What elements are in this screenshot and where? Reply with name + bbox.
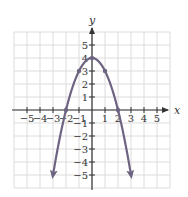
y-tick-label: −4 [73, 157, 88, 168]
axes [12, 28, 168, 190]
data-point [64, 108, 68, 112]
data-point [90, 56, 94, 60]
x-tick-label: 4 [141, 113, 147, 124]
x-tick-label: 3 [128, 113, 134, 124]
y-tick-label: 5 [82, 40, 88, 51]
y-tick-label: 2 [82, 79, 88, 90]
y-axis-label: y [88, 14, 96, 27]
data-point [116, 108, 120, 112]
parabola-chart: −5−4−3−2−112345 −5−4−3−2−112345 x y [0, 0, 188, 197]
y-tick-label: −3 [73, 144, 88, 155]
x-tick-label: 5 [154, 113, 160, 124]
y-tick-label: −2 [73, 131, 88, 142]
data-point [103, 69, 107, 73]
x-tick-labels: −5−4−3−2−112345 [20, 113, 161, 124]
data-point [77, 69, 81, 73]
y-tick-label: 1 [82, 92, 88, 103]
y-tick-label: 3 [82, 66, 88, 77]
y-tick-label: −1 [73, 118, 88, 129]
x-axis-label: x [174, 104, 181, 117]
y-tick-label: −5 [73, 170, 88, 181]
curve-right-branch [92, 58, 131, 175]
x-tick-label: 1 [102, 113, 108, 124]
